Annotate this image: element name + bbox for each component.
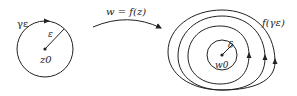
mapping-label: w = f(z) xyxy=(106,6,146,17)
w0-label: w0 xyxy=(215,60,229,70)
loop-arrow-icon xyxy=(263,54,268,60)
winding-loop-2 xyxy=(178,16,265,90)
winding-loop-3 xyxy=(168,10,275,90)
epsilon-label: ε xyxy=(48,29,53,39)
mapping-diagram: γε ε z0 w = f(z) δ w0 f(γε) xyxy=(0,0,297,96)
center-point xyxy=(43,47,46,50)
gamma-epsilon-label: γε xyxy=(17,18,28,29)
loop-arrow-icon xyxy=(247,52,252,58)
winding-loop-1 xyxy=(188,26,249,84)
z0-label: z0 xyxy=(39,54,52,65)
delta-label: δ xyxy=(228,40,233,50)
mapping-arrow xyxy=(93,20,161,28)
w0-point xyxy=(220,53,223,56)
orientation-arrow-icon xyxy=(44,19,50,24)
f-gamma-label: f(γε) xyxy=(261,17,285,28)
loop-arrow-icon xyxy=(273,58,278,64)
